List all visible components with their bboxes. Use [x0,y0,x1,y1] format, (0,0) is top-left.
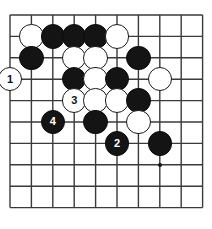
move-stone-1: 1 [0,67,22,91]
white-stone [105,24,129,48]
white-stone [19,24,43,48]
black-stone [126,46,150,70]
stone-layer: 1342 [0,0,212,229]
black-stone [83,110,107,134]
stone-move-number: 3 [71,95,77,106]
stone-move-number: 2 [114,138,120,149]
black-stone [148,131,172,155]
move-stone-4: 4 [41,110,65,134]
black-stone [19,46,43,70]
star-point [158,163,162,167]
white-stone [148,67,172,91]
stone-move-number: 4 [50,116,56,127]
move-stone-2: 2 [105,131,129,155]
go-board-diagram: 1342 [0,0,212,229]
white-stone [126,110,150,134]
stone-move-number: 1 [7,73,13,84]
